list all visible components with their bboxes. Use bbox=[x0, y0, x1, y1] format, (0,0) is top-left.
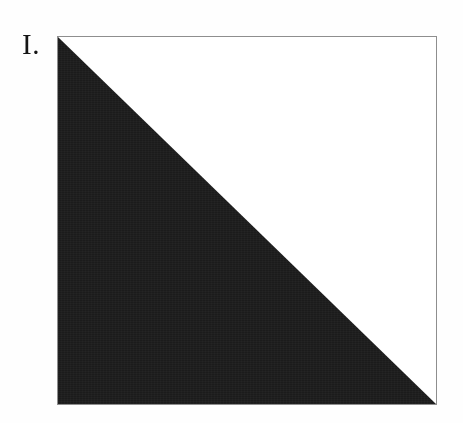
figure-label: I. bbox=[22, 30, 40, 59]
figure-canvas bbox=[58, 37, 436, 404]
square-frame bbox=[57, 36, 437, 405]
figure-root: I. bbox=[0, 0, 463, 423]
